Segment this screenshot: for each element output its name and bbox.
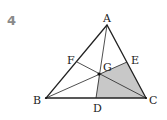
label-e: E	[131, 54, 139, 67]
centroid-point	[97, 72, 100, 75]
label-d: D	[93, 102, 102, 115]
label-c: C	[149, 94, 157, 107]
label-b: B	[33, 94, 41, 107]
label-f: F	[67, 54, 75, 67]
point-b	[45, 97, 47, 99]
label-g: G	[103, 61, 112, 74]
triangle-diagram: A B C D E F G	[0, 0, 167, 120]
point-c	[145, 97, 147, 99]
label-a: A	[102, 12, 112, 25]
